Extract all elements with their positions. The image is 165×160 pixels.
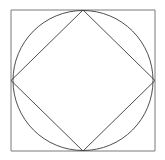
figure-background bbox=[0, 0, 165, 160]
geometric-figure bbox=[0, 0, 165, 160]
